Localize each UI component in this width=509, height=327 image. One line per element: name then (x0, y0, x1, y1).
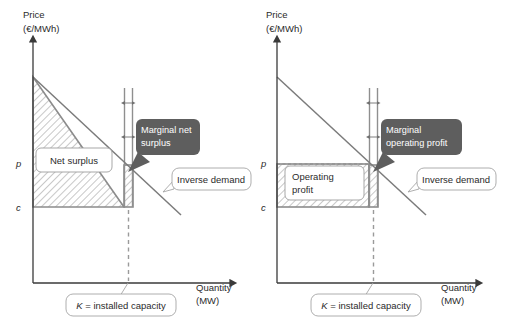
price-tick-label-right: p (260, 158, 266, 169)
capacity-text-right: = installed capacity (328, 300, 411, 311)
cost-tick-label: c (16, 202, 21, 213)
marginal-net-surplus-line2: surplus (141, 138, 171, 148)
cost-tick-label-right: c (261, 202, 266, 213)
y-axis-label-line1-right: Price (266, 9, 288, 20)
x-axis-label-line1: Quantity (196, 282, 232, 293)
x-axis-label-line2-right: (MW) (441, 295, 464, 306)
inverse-demand-callout-label-right: Inverse demand (422, 174, 490, 185)
capacity-callout-label: K = installed capacity (76, 300, 166, 311)
marginal-operating-profit-line2: operating profit (386, 138, 448, 148)
operating-profit-label-line2: profit (292, 184, 313, 195)
x-axis-label-line1-right: Quantity (441, 282, 477, 293)
y-axis-label-line1: Price (23, 9, 45, 20)
operating-profit-panel: Price (€/MWh) Quantity (MW) p c Operatin… (260, 9, 496, 316)
net-surplus-shaded-area (33, 77, 124, 207)
net-surplus-label: Net surplus (50, 155, 98, 166)
marginal-net-surplus-line1: Marginal net (141, 125, 192, 135)
diagram-canvas: Price (€/MWh) Quantity (MW) p c Net surp… (0, 0, 509, 327)
capacity-text: = installed capacity (83, 300, 166, 311)
net-surplus-panel: Price (€/MWh) Quantity (MW) p c Net surp… (15, 9, 251, 316)
economics-diagram-figure: Price (€/MWh) Quantity (MW) p c Net surp… (0, 0, 509, 327)
operating-profit-label-line1: Operating (292, 171, 334, 182)
x-axis-label-line2: (MW) (196, 295, 219, 306)
price-tick-label: p (15, 158, 21, 169)
y-axis-label-line2: (€/MWh) (23, 23, 59, 34)
inverse-demand-callout-label: Inverse demand (177, 174, 245, 185)
y-axis-label-line2-right: (€/MWh) (266, 23, 302, 34)
capacity-callout-label-right: K = installed capacity (321, 300, 411, 311)
marginal-operating-profit-line1: Marginal (386, 125, 421, 135)
